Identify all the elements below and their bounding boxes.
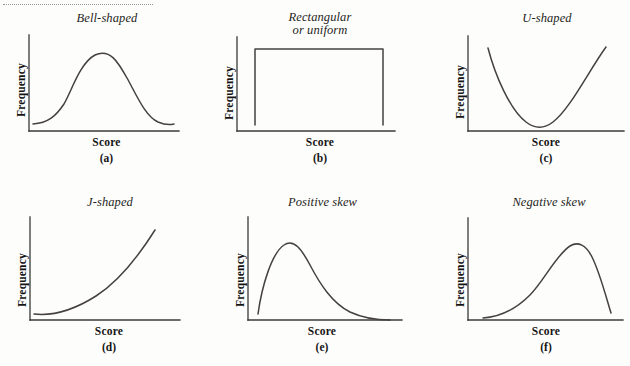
positive-skew-curve bbox=[258, 243, 390, 320]
panel-d-x-label: Score bbox=[55, 325, 163, 337]
panel-f-plot: Negative skew Frequency Score (f) bbox=[420, 197, 630, 366]
figure-root: Bell-shaped Frequency Score (a) Rectangu… bbox=[0, 0, 630, 366]
panel-a-title: Bell-shaped bbox=[52, 12, 162, 25]
panel-a-x-label: Score bbox=[54, 136, 159, 148]
panel-a-svg bbox=[0, 12, 210, 195]
panel-b-plot: Rectangular or uniform Frequency Score (… bbox=[210, 12, 420, 195]
bell-curve bbox=[33, 53, 174, 124]
panel-b-letter: (b) bbox=[265, 152, 375, 164]
panel-a-letter: (a) bbox=[54, 152, 159, 164]
panel-c-svg bbox=[420, 12, 630, 195]
panel-b-svg bbox=[210, 12, 420, 195]
panel-b: Rectangular or uniform Frequency Score (… bbox=[210, 12, 420, 195]
panel-e-x-label: Score bbox=[268, 325, 376, 337]
panel-b-y-label: Frequency bbox=[223, 66, 235, 120]
panel-a-plot: Bell-shaped Frequency Score (a) bbox=[0, 12, 210, 195]
panel-e-y-label: Frequency bbox=[234, 253, 246, 307]
j-shaped-curve bbox=[34, 230, 155, 314]
panel-f-title: Negative skew bbox=[490, 196, 608, 209]
panel-f-x-label: Score bbox=[492, 325, 600, 337]
panel-d-plot: J-shaped Frequency Score (d) bbox=[0, 197, 210, 366]
panel-a: Bell-shaped Frequency Score (a) bbox=[0, 12, 210, 195]
panel-d-title: J-shaped bbox=[55, 196, 165, 209]
panel-c-plot: U-shaped Frequency Score (c) bbox=[420, 12, 630, 195]
panel-c: U-shaped Frequency Score (c) bbox=[420, 12, 630, 195]
panel-a-y-label: Frequency bbox=[15, 63, 27, 117]
panel-c-title: U-shaped bbox=[492, 12, 602, 25]
rectangular-curve bbox=[255, 49, 383, 125]
panel-e-plot: Positive skew Frequency Score (e) bbox=[210, 197, 420, 366]
panel-f-y-label: Frequency bbox=[454, 253, 466, 307]
panel-d: J-shaped Frequency Score (d) bbox=[0, 197, 210, 366]
panel-b-x-label: Score bbox=[265, 136, 375, 148]
panel-f-letter: (f) bbox=[492, 341, 600, 353]
panel-c-letter: (c) bbox=[492, 152, 600, 164]
panel-e: Positive skew Frequency Score (e) bbox=[210, 197, 420, 366]
panel-c-y-label: Frequency bbox=[454, 65, 466, 119]
panel-e-letter: (e) bbox=[268, 341, 376, 353]
dotted-rule-icon bbox=[3, 4, 153, 5]
panel-d-y-label: Frequency bbox=[16, 253, 28, 307]
panel-f: Negative skew Frequency Score (f) bbox=[420, 197, 630, 366]
panel-b-title: Rectangular or uniform bbox=[265, 11, 375, 37]
negative-skew-curve bbox=[483, 244, 611, 318]
panel-c-x-label: Score bbox=[492, 136, 600, 148]
panel-d-letter: (d) bbox=[55, 341, 163, 353]
panel-e-title: Positive skew bbox=[265, 196, 380, 209]
u-shaped-curve bbox=[488, 47, 606, 127]
